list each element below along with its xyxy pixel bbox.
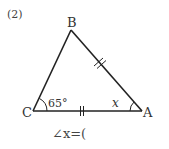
vertex-label-c: C [22,105,32,120]
vertex-label-a: A [142,105,153,120]
angle-arc-c [40,99,48,112]
angle-arc-a [130,102,134,111]
answer-prompt: ∠x=( [52,127,86,140]
angle-label-a: x [112,96,119,110]
vertex-label-b: B [67,15,77,30]
angle-label-c: 65° [48,97,68,110]
side-ba [71,30,142,111]
